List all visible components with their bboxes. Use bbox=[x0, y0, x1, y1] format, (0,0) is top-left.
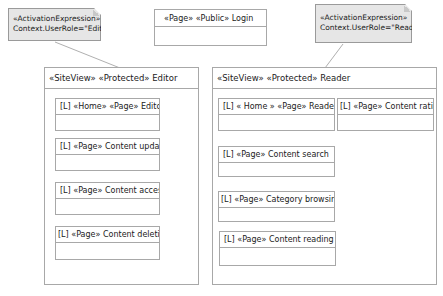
editor-activation-note[interactable]: «ActivationExpression» Context.UserRole=… bbox=[8, 8, 101, 41]
page-reader-home[interactable]: [L] « Home » «Page» Reader bbox=[218, 98, 335, 131]
page-title: [L] «Page» Content deletion bbox=[56, 227, 159, 243]
page-title: [L] « Home » «Page» Reader bbox=[219, 99, 334, 115]
siteview-editor-title: «SiteView» «Protected» Editor bbox=[45, 68, 198, 89]
page-content-rating[interactable]: [L] «Page» Content rating bbox=[337, 98, 434, 131]
page-title: [L] «Page» Content update bbox=[56, 139, 159, 155]
page-title: [L] «Page» Content rating bbox=[338, 99, 433, 115]
reader-activation-note[interactable]: «ActivationExpression» Context.UserRole=… bbox=[315, 4, 412, 43]
siteview-reader-title: «SiteView» «Protected» Reader bbox=[213, 68, 436, 89]
reader-note-connector bbox=[325, 44, 343, 68]
page-content-access[interactable]: [L] «Page» Content access bbox=[55, 182, 160, 215]
page-content-deletion[interactable]: [L] «Page» Content deletion bbox=[55, 226, 160, 260]
editor-note-connector bbox=[55, 42, 120, 68]
login-page[interactable]: «Page» «Public» Login bbox=[154, 9, 267, 46]
page-category-browsing[interactable]: [L] «Page» Category browsing bbox=[218, 191, 335, 222]
note-stereotype: «ActivationExpression» bbox=[320, 13, 408, 23]
page-editor-home[interactable]: [L] «Home» «Page» Editor bbox=[55, 98, 160, 131]
page-title: [L] «Home» «Page» Editor bbox=[56, 99, 159, 115]
note-stereotype: «ActivationExpression» bbox=[13, 14, 97, 24]
page-content-update[interactable]: [L] «Page» Content update bbox=[55, 138, 160, 171]
login-page-title: «Page» «Public» Login bbox=[155, 10, 266, 27]
page-title: [L] «Page» Content access bbox=[56, 183, 159, 199]
page-title: [L] «Page» Content search bbox=[219, 147, 334, 163]
note-expression: Context.UserRole="Reader" bbox=[320, 23, 408, 33]
note-expression: Context.UserRole="Editor" bbox=[13, 24, 97, 34]
page-title: [L] «Page» Content reading bbox=[220, 232, 335, 248]
page-title: [L] «Page» Category browsing bbox=[219, 192, 334, 208]
page-content-search[interactable]: [L] «Page» Content search bbox=[218, 146, 335, 177]
page-content-reading[interactable]: [L] «Page» Content reading bbox=[219, 231, 336, 266]
